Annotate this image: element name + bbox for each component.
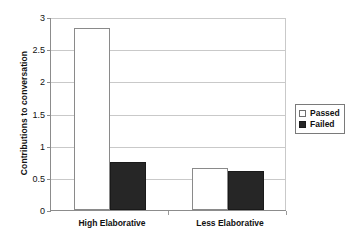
x-axis-label-high-elaborative: High Elaborative	[78, 218, 145, 228]
bar-failed-less-elaborative	[228, 171, 264, 210]
y-tick-2	[47, 82, 51, 83]
y-axis-title: Contributions to conversation	[19, 13, 29, 213]
y-tick-2.5	[47, 50, 51, 51]
bar-passed-high-elaborative	[74, 28, 110, 210]
y-tick-label-3: 3	[40, 13, 45, 23]
y-tick-label-1: 1	[40, 142, 45, 152]
bar-passed-less-elaborative	[192, 168, 228, 210]
y-tick-3	[47, 18, 51, 19]
bar-failed-high-elaborative	[110, 162, 146, 210]
legend-label-passed: Passed	[310, 108, 340, 119]
y-tick-label-1.5: 1.5	[32, 110, 45, 120]
y-tick-0	[47, 211, 51, 212]
gridline-3	[51, 18, 286, 19]
chart-legend: Passed Failed	[295, 104, 345, 134]
plot-area: 00.511.522.53	[50, 18, 286, 211]
legend-label-failed: Failed	[310, 119, 335, 130]
legend-entry-passed: Passed	[299, 108, 340, 119]
bar-chart-figure: Contributions to conversation 00.511.522…	[0, 0, 354, 246]
x-axis-label-less-elaborative: Less Elaborative	[196, 218, 264, 228]
black-square-icon	[299, 121, 306, 128]
y-tick-label-0: 0	[40, 206, 45, 216]
x-axis-separator	[168, 211, 169, 215]
legend-entry-failed: Failed	[299, 119, 340, 130]
y-tick-1.5	[47, 115, 51, 116]
y-tick-0.5	[47, 179, 51, 180]
y-tick-1	[47, 147, 51, 148]
y-tick-label-0.5: 0.5	[32, 174, 45, 184]
x-axis-separator	[286, 211, 287, 215]
y-tick-label-2.5: 2.5	[32, 45, 45, 55]
y-tick-label-2: 2	[40, 77, 45, 87]
white-square-icon	[299, 110, 306, 117]
